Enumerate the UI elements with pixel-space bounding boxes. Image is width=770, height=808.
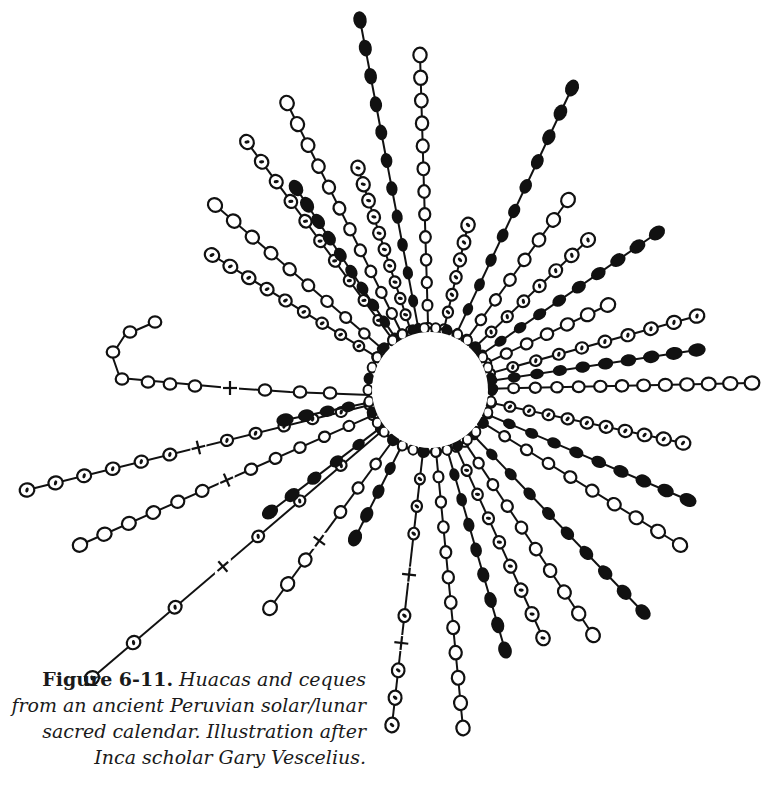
huaca-bead-open bbox=[649, 522, 668, 540]
cross-marker bbox=[394, 642, 408, 644]
huaca-bead-open bbox=[508, 383, 519, 393]
ceque-ray bbox=[438, 216, 476, 335]
huaca-bead-open bbox=[288, 115, 306, 134]
huaca-bead-filled bbox=[354, 279, 371, 297]
huaca-bead-open bbox=[659, 379, 673, 391]
huaca-bead-filled bbox=[608, 250, 629, 270]
huaca-bead-filled bbox=[665, 346, 684, 361]
huaca-bead-filled bbox=[687, 342, 706, 358]
huaca-bead-filled bbox=[407, 294, 419, 309]
huaca-bead-open bbox=[447, 620, 460, 634]
huaca-bead-open bbox=[416, 116, 429, 130]
huaca-bead-open bbox=[374, 285, 388, 300]
huaca-bead-filled bbox=[562, 77, 581, 98]
huaca-bead-filled bbox=[512, 320, 529, 336]
huaca-bead-open bbox=[471, 456, 485, 471]
huaca-bead-filled bbox=[575, 360, 591, 373]
huaca-bead-filled bbox=[489, 615, 506, 635]
huaca-bead-open bbox=[442, 571, 454, 584]
huaca-bead-filled bbox=[569, 278, 588, 296]
ceque-ray bbox=[479, 296, 617, 370]
huaca-bead-filled bbox=[517, 177, 534, 196]
huaca-bead-open bbox=[451, 670, 465, 685]
ceque-line bbox=[215, 205, 383, 350]
ring-bead bbox=[420, 323, 429, 333]
ceque-ray bbox=[205, 195, 390, 356]
huaca-bead-open bbox=[453, 695, 467, 711]
huaca-bead-filled bbox=[506, 202, 523, 220]
huaca-bead-open bbox=[422, 277, 432, 288]
central-void bbox=[372, 332, 488, 448]
huaca-bead-filled bbox=[523, 426, 540, 441]
huaca-bead-filled bbox=[455, 492, 469, 508]
huaca-bead-open bbox=[558, 190, 577, 210]
huaca-bead-open bbox=[569, 604, 588, 623]
ring-bead bbox=[486, 374, 495, 384]
huaca-bead-open bbox=[124, 326, 137, 337]
huaca-bead-open bbox=[120, 515, 138, 532]
huaca-bead-open bbox=[294, 386, 307, 397]
huaca-bead-filled bbox=[379, 152, 393, 169]
ring-bead bbox=[431, 323, 440, 333]
huaca-bead-open bbox=[260, 598, 279, 618]
huaca-bead-open bbox=[321, 179, 338, 196]
huaca-bead-open bbox=[485, 477, 500, 492]
ceque-ray bbox=[385, 446, 429, 733]
ceque-ray bbox=[413, 47, 433, 333]
huaca-bead-filled bbox=[402, 265, 415, 280]
huaca-bead-open bbox=[415, 93, 428, 107]
central-ring bbox=[364, 323, 497, 456]
huaca-bead-filled bbox=[551, 102, 570, 123]
huaca-bead-open bbox=[317, 430, 331, 444]
huaca-bead-open bbox=[527, 540, 544, 557]
huaca-bead-open bbox=[278, 575, 297, 594]
huaca-bead-open bbox=[414, 70, 427, 85]
huaca-bead-open bbox=[278, 93, 296, 112]
huaca-bead-open bbox=[194, 483, 211, 499]
huaca-bead-open bbox=[293, 440, 308, 454]
huaca-bead-filled bbox=[483, 252, 499, 269]
huaca-bead-open bbox=[71, 536, 90, 554]
huaca-bead-open bbox=[342, 221, 358, 237]
huaca-bead-open bbox=[332, 504, 348, 521]
ceque-ray bbox=[275, 397, 376, 429]
huaca-bead-filled bbox=[530, 368, 545, 380]
huaca-bead-filled bbox=[495, 227, 511, 245]
huaca-bead-filled bbox=[462, 516, 476, 533]
huaca-bead-open bbox=[422, 300, 432, 311]
huaca-bead-open bbox=[433, 471, 444, 483]
huaca-bead-open bbox=[444, 595, 457, 609]
huaca-bead-open bbox=[95, 525, 113, 543]
huaca-bead-open bbox=[419, 208, 430, 221]
ceque-line bbox=[473, 435, 643, 612]
huaca-bead-open bbox=[530, 231, 548, 249]
huaca-bead-filled bbox=[374, 124, 389, 142]
huaca-bead-open bbox=[583, 625, 602, 645]
huaca-bead-open bbox=[551, 382, 563, 393]
huaca-bead-filled bbox=[368, 95, 383, 113]
huaca-bead-filled bbox=[448, 467, 461, 482]
huaca-bead-open bbox=[670, 535, 690, 554]
huaca-bead-filled bbox=[469, 541, 484, 559]
huaca-bead-open bbox=[421, 254, 432, 266]
huaca-bead-open bbox=[243, 462, 259, 477]
huaca-bead-open bbox=[449, 645, 463, 660]
huaca-bead-filled bbox=[496, 640, 514, 661]
huaca-bead-open bbox=[723, 377, 738, 390]
figure-label: Figure 6-11. bbox=[42, 668, 173, 690]
huaca-bead-filled bbox=[627, 236, 648, 256]
huaca-bead-filled bbox=[475, 566, 491, 584]
ceque-line bbox=[392, 452, 423, 725]
huaca-bead-open bbox=[562, 469, 578, 485]
huaca-bead-filled bbox=[545, 435, 562, 450]
huaca-bead-open bbox=[530, 383, 541, 393]
huaca-bead-filled bbox=[472, 276, 487, 293]
cross-marker bbox=[402, 574, 416, 576]
huaca-bead-open bbox=[637, 379, 650, 391]
ceque-ray bbox=[202, 245, 384, 364]
huaca-bead-open bbox=[584, 482, 601, 499]
huaca-bead-open bbox=[364, 264, 379, 279]
huaca-bead-filled bbox=[382, 460, 398, 477]
huaca-bead-open bbox=[420, 231, 431, 243]
huaca-bead-open bbox=[438, 521, 450, 534]
